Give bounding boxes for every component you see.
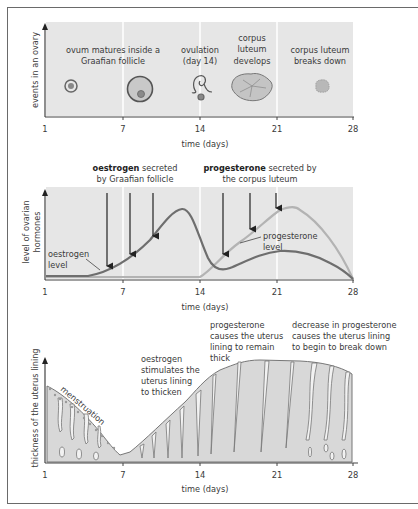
hormone-levels-panel: oestrogen secreted by Graafian follicle … [21, 163, 358, 312]
oestrogen-thicken-label: uterus lining [141, 376, 192, 386]
graafian-follicle-icon [128, 77, 153, 102]
corpus-luteum-develops-label: develops [234, 56, 271, 66]
small-follicle-icon [65, 80, 77, 92]
corpus-luteum-develops-label: luteum [238, 44, 267, 54]
progesterone-level-label: progesterone [263, 231, 318, 241]
oestrogen-secreted-label: by Graafian follicle [97, 174, 174, 184]
tick-label: 7 [120, 470, 125, 480]
y-axis-label: level of ovarian [21, 200, 31, 263]
y-axis-label: hormones [32, 212, 42, 253]
progesterone-thick-label: causes the uterus [210, 331, 283, 341]
corpus-luteum-breaks-label: corpus luteum [290, 45, 349, 55]
progesterone-secreted-label: progesterone secreted by [203, 163, 316, 173]
oestrogen-level-label: level [48, 260, 67, 270]
x-axis-label: time (days) [182, 302, 229, 312]
tick-label: 7 [120, 287, 125, 297]
ovary-events-panel: 1 7 14 21 28 time (days) events in an ov… [30, 22, 358, 149]
tick-label: 1 [42, 124, 47, 134]
tick-label: 28 [348, 470, 359, 480]
tick-label: 7 [120, 124, 125, 134]
x-axis-label: time (days) [182, 139, 229, 149]
progesterone-level-label: level [263, 242, 282, 252]
decrease-progesterone-label: decrease in progesterone [292, 320, 397, 330]
corpus-luteum-breaks-label: breaks down [294, 56, 346, 66]
tick-label: 14 [195, 470, 206, 480]
tick-label: 21 [272, 287, 283, 297]
tick-label: 1 [42, 287, 47, 297]
follicle-label: ovum matures inside a [66, 45, 160, 55]
oestrogen-thicken-label: oestrogen [141, 354, 182, 364]
y-axis-label: thickness of the uterus lining [30, 348, 40, 467]
progesterone-secreted-label: the corpus luteum [222, 174, 297, 184]
progesterone-thick-label: thick [210, 353, 230, 363]
tick-label: 28 [348, 124, 359, 134]
progesterone-thick-label: progesterone [210, 320, 265, 330]
tick-label: 1 [42, 470, 47, 480]
y-axis-label: events in an ovary [30, 32, 40, 108]
tick-label: 14 [195, 287, 206, 297]
y-axis-arrow-icon [42, 357, 48, 364]
tick-label: 28 [348, 287, 359, 297]
ovulation-label: (day 14) [183, 56, 217, 66]
decrease-progesterone-label: causes the uterus lining [292, 331, 390, 341]
corpus-albicans-icon [316, 80, 329, 92]
oestrogen-secreted-label: oestrogen secreted [93, 163, 178, 173]
tick-label: 21 [272, 124, 283, 134]
decrease-progesterone-label: to begin to break down [292, 342, 387, 352]
tick-label: 14 [195, 124, 206, 134]
follicle-label: Graafian follicle [81, 56, 145, 66]
progesterone-thick-label: lining to remain [210, 342, 275, 352]
oestrogen-level-label: oestrogen [48, 249, 89, 259]
ovulation-label: ovulation [181, 45, 219, 55]
uterus-lining-panel: progesterone causes the uterus lining to… [30, 320, 397, 494]
tick-label: 21 [272, 470, 283, 480]
oestrogen-thicken-label: stimulates the [141, 365, 200, 375]
corpus-luteum-develops-label: corpus [238, 33, 266, 43]
oestrogen-thicken-label: to thicken [141, 387, 182, 397]
x-axis-label: time (days) [182, 484, 229, 494]
